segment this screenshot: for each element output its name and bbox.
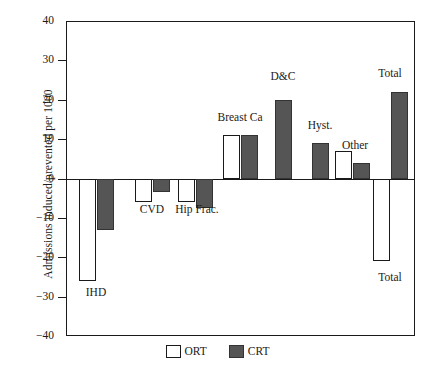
legend-swatch-crt [229, 345, 244, 358]
bar-ort-other [335, 151, 352, 179]
y-axis-tick-label: 20 [14, 94, 54, 106]
y-axis-tick-label: 30 [14, 55, 54, 67]
y-axis-tick [58, 100, 66, 101]
legend-label-crt: CRT [248, 346, 270, 358]
bar-crt-other [353, 163, 370, 179]
bar-crt-hyst [312, 143, 329, 178]
y-axis-tick [58, 218, 66, 219]
bar-crt-ihd [97, 179, 114, 230]
chart-legend: ORT CRT [0, 345, 435, 358]
category-label-total: Total [378, 68, 401, 80]
category-label-breast-ca: Breast Ca [217, 112, 262, 124]
legend-swatch-ort [166, 345, 181, 358]
category-label-hyst: Hyst. [308, 120, 333, 132]
bar-crt-breast-ca [241, 135, 258, 178]
legend-entry-crt: CRT [229, 345, 270, 358]
category-label-hip-frac: Hip Frac. [175, 204, 218, 216]
bar-ort-cvd [135, 179, 152, 203]
category-label-d-c: D&C [271, 71, 296, 83]
bar-crt-total [391, 92, 408, 179]
legend-entry-ort: ORT [166, 345, 207, 358]
y-axis-tick [58, 60, 66, 61]
category-label-ihd: IHD [86, 287, 106, 299]
zero-baseline [66, 179, 415, 180]
y-axis-tick [58, 257, 66, 258]
y-axis-tick [58, 139, 66, 140]
bar-ort-breast-ca [223, 135, 240, 178]
y-axis-tick-label: 0 [14, 173, 54, 185]
bar-crt-cvd [153, 179, 170, 193]
y-axis-tick-label: −10 [14, 212, 54, 224]
y-axis-tick-label: −40 [14, 330, 54, 342]
y-axis-tick-label: −20 [14, 252, 54, 264]
bar-ort-ihd [79, 179, 96, 281]
bar-ort-hip-frac [178, 179, 195, 203]
bar-crt-d-c [275, 100, 292, 179]
y-axis-tick [58, 179, 66, 180]
y-axis-tick-label: −30 [14, 291, 54, 303]
category-label-total-lower: Total [378, 272, 401, 284]
legend-label-ort: ORT [185, 346, 207, 358]
bar-chart-figure: Admissions induced/prevented per 1000 40… [0, 0, 435, 371]
category-label-other: Other [342, 140, 368, 152]
bar-ort-total [373, 179, 390, 262]
y-axis-tick-label: 40 [14, 15, 54, 27]
y-axis-tick [58, 297, 66, 298]
category-label-cvd: CVD [140, 204, 164, 216]
y-axis-tick-label: 10 [14, 133, 54, 145]
